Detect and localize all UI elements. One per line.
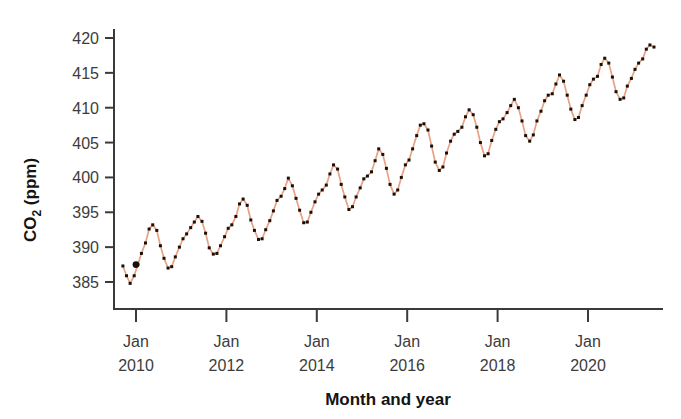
y-tick-label: 420 <box>72 30 99 47</box>
y-tick-label: 400 <box>72 169 99 186</box>
data-point-marker <box>453 133 456 136</box>
data-point-marker <box>483 154 486 157</box>
x-tick-label-year: 2016 <box>389 357 425 374</box>
data-point-marker <box>551 92 554 95</box>
data-point-marker <box>434 161 437 164</box>
data-point-marker <box>291 184 294 187</box>
x-tick-label-year: 2012 <box>209 357 245 374</box>
data-point-marker <box>566 94 569 97</box>
data-point-marker <box>426 129 429 132</box>
data-point-marker <box>438 169 441 172</box>
data-point-marker <box>343 195 346 198</box>
data-point-marker <box>607 62 610 65</box>
data-point-marker <box>381 153 384 156</box>
data-point-marker <box>121 264 124 267</box>
data-point-marker <box>441 165 444 168</box>
data-point-marker <box>174 255 177 258</box>
data-point-marker <box>521 119 524 122</box>
co2-line-chart: CO2 (ppm) 385390395400405410415420 Jan20… <box>0 0 681 419</box>
data-point-marker <box>261 237 264 240</box>
y-axis-ticks: 385390395400405410415420 <box>72 30 114 291</box>
data-point-marker <box>393 193 396 196</box>
data-point-marker <box>539 110 542 113</box>
data-point-marker <box>648 43 651 46</box>
data-point-marker <box>411 147 414 150</box>
data-point-marker <box>306 221 309 224</box>
data-point-marker <box>377 147 380 150</box>
data-point-marker <box>287 177 290 180</box>
data-point-marker <box>347 208 350 211</box>
data-point-marker <box>185 232 188 235</box>
data-point-marker <box>219 244 222 247</box>
y-tick-label: 395 <box>72 204 99 221</box>
data-point-marker <box>340 183 343 186</box>
data-point-marker <box>182 237 185 240</box>
co2-series-line <box>123 45 654 283</box>
data-point-marker <box>212 253 215 256</box>
data-point-marker <box>641 57 644 60</box>
x-axis-title: Month and year <box>325 390 451 409</box>
data-point-marker <box>193 221 196 224</box>
data-point-marker <box>430 145 433 148</box>
data-point-marker <box>328 172 331 175</box>
data-point-marker <box>581 104 584 107</box>
data-point-marker <box>588 83 591 86</box>
data-point-marker <box>494 128 497 131</box>
data-point-marker <box>528 140 531 143</box>
data-point-marker <box>151 223 154 226</box>
data-point-marker <box>374 159 377 162</box>
x-tick-label-month: Jan <box>575 333 601 350</box>
x-tick-label-month: Jan <box>304 333 330 350</box>
data-point-marker <box>129 282 132 285</box>
data-point-marker <box>506 111 509 114</box>
x-tick-label-year: 2010 <box>118 357 154 374</box>
data-point-marker <box>577 116 580 119</box>
data-point-marker <box>468 108 471 111</box>
emphasized-point-dot <box>133 261 140 268</box>
data-point-marker <box>585 94 588 97</box>
data-point-marker <box>630 77 633 80</box>
x-tick-label-month: Jan <box>394 333 420 350</box>
data-point-marker <box>362 177 365 180</box>
data-point-marker <box>359 186 362 189</box>
data-point-marker <box>543 99 546 102</box>
data-point-marker <box>189 226 192 229</box>
data-point-marker <box>415 134 418 137</box>
data-point-marker <box>148 228 151 231</box>
data-point-marker <box>280 195 283 198</box>
data-point-marker <box>498 120 501 123</box>
data-point-marker <box>535 119 538 122</box>
data-point-marker <box>517 106 520 109</box>
co2-chart-figure: CO2 (ppm) 385390395400405410415420 Jan20… <box>0 0 681 419</box>
data-point-marker <box>596 75 599 78</box>
data-point-marker <box>502 117 505 120</box>
data-point-marker <box>223 235 226 238</box>
y-tick-label: 410 <box>72 100 99 117</box>
y-axis-title-main: CO <box>21 217 40 243</box>
y-tick-label: 405 <box>72 135 99 152</box>
data-point-marker <box>472 113 475 116</box>
data-point-marker <box>298 209 301 212</box>
data-point-marker <box>204 232 207 235</box>
data-point-marker <box>366 175 369 178</box>
data-point-marker <box>351 205 354 208</box>
data-point-marker <box>208 246 211 249</box>
data-point-marker <box>276 199 279 202</box>
data-point-marker <box>611 76 614 79</box>
data-point-marker <box>460 126 463 129</box>
data-point-marker <box>456 130 459 133</box>
data-point-marker <box>321 188 324 191</box>
data-point-marker <box>385 167 388 170</box>
data-point-marker <box>524 134 527 137</box>
data-point-marker <box>389 183 392 186</box>
data-point-marker <box>396 188 399 191</box>
data-point-marker <box>283 187 286 190</box>
data-point-marker <box>475 126 478 129</box>
data-point-marker <box>464 115 467 118</box>
data-point-marker <box>196 215 199 218</box>
data-point-marker <box>619 98 622 101</box>
data-point-marker <box>155 229 158 232</box>
data-point-marker <box>622 96 625 99</box>
x-tick-label-year: 2014 <box>299 357 335 374</box>
data-point-marker <box>532 133 535 136</box>
